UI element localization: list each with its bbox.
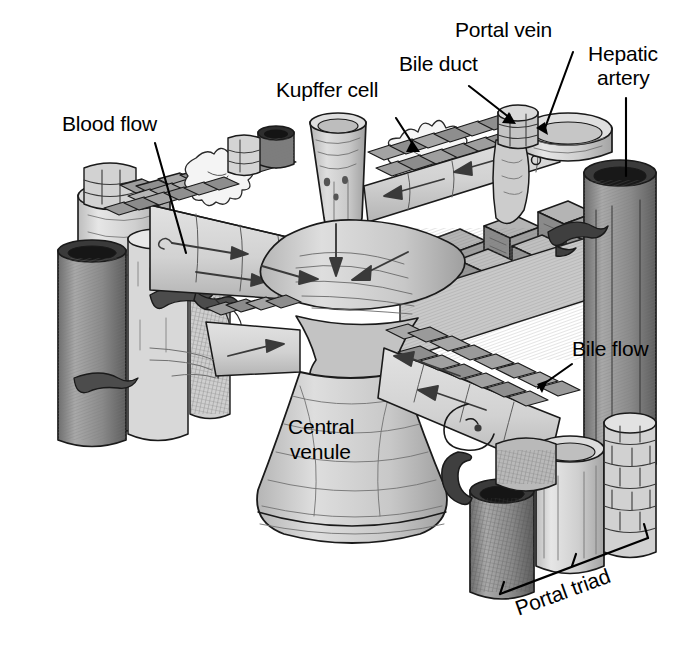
bottom-portal-triad-group (442, 413, 656, 599)
small-dark-tube (258, 126, 294, 168)
bile-ductule-small (228, 135, 260, 176)
lobule-illustration (0, 0, 678, 647)
leader-bile-duct (469, 86, 510, 118)
bile-duct-structure (498, 105, 538, 149)
liver-lobule-figure: Blood flow Kupffer cell Bile duct Portal… (0, 0, 678, 647)
